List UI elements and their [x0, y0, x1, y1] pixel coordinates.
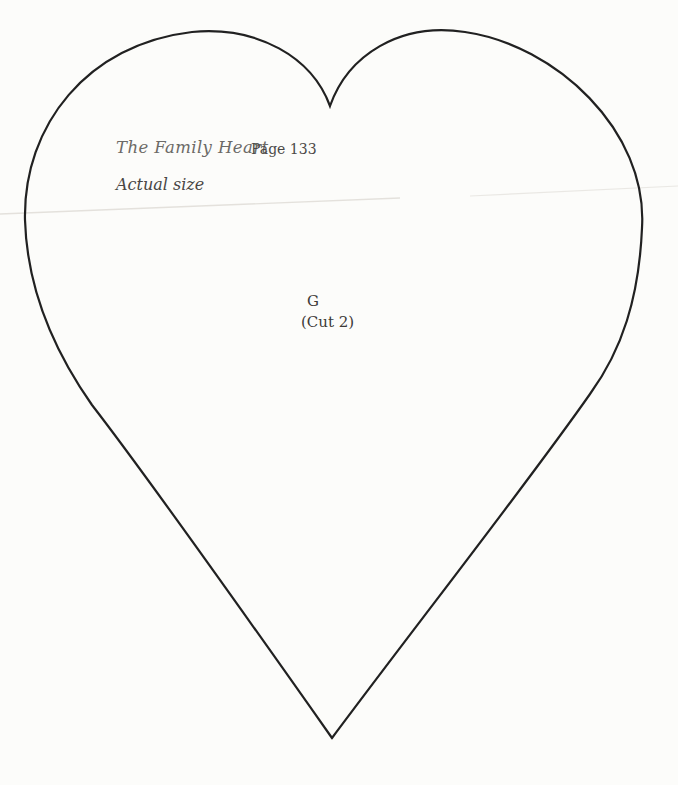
book-title: The Family Heart — [116, 138, 268, 158]
scan-crease-line — [0, 198, 400, 214]
pattern-piece-letter: G — [301, 291, 354, 312]
size-note: Actual size — [116, 175, 204, 194]
page-reference: Page 133 — [251, 141, 317, 158]
pattern-drawing — [0, 0, 678, 785]
scan-crease-line — [470, 186, 678, 196]
cut-instruction: (Cut 2) — [301, 312, 354, 333]
scanned-pattern-page: The Family Heart Page 133 Actual size G … — [0, 0, 678, 785]
pattern-piece-label-block: G (Cut 2) — [301, 291, 354, 333]
heart-outline — [25, 30, 642, 738]
